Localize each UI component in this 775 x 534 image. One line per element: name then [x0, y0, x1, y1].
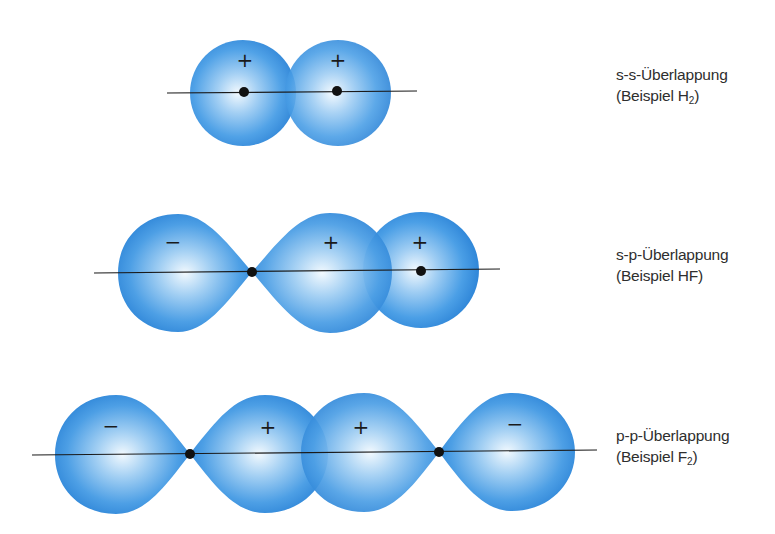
- label-example: (Beispiel F2): [616, 446, 729, 467]
- label-title: p-p-Überlappung: [616, 425, 729, 446]
- label-example: (Beispiel HF): [616, 265, 728, 286]
- row-s-s-diagram: + +: [167, 40, 417, 146]
- row-s-p-diagram: − + +: [94, 212, 500, 333]
- phase-sign: +: [323, 230, 340, 254]
- phase-sign: −: [507, 412, 524, 436]
- label-example: (Beispiel H2): [616, 85, 728, 106]
- phase-sign: −: [165, 230, 182, 254]
- phase-sign: −: [103, 414, 120, 438]
- nucleus-dot: [239, 87, 249, 97]
- phase-sign: +: [237, 48, 254, 72]
- orbital-overlap-diagram: + + − + + − + + − s-s-Überlappung (Beisp…: [0, 0, 775, 534]
- phase-sign: +: [353, 415, 370, 439]
- p-lobe-negative: [439, 393, 575, 511]
- nucleus-dot: [247, 267, 257, 277]
- nucleus-dot: [185, 449, 195, 459]
- label-title: s-p-Überlappung: [616, 244, 728, 265]
- nucleus-dot: [434, 447, 444, 457]
- phase-sign: +: [330, 48, 347, 72]
- row-p-p-diagram: − + + −: [32, 393, 597, 514]
- nucleus-dot: [416, 266, 426, 276]
- nucleus-dot: [332, 86, 342, 96]
- label-s-p: s-p-Überlappung (Beispiel HF): [616, 244, 728, 286]
- phase-sign: +: [412, 230, 429, 254]
- phase-sign: +: [260, 415, 277, 439]
- label-p-p: p-p-Überlappung (Beispiel F2): [616, 425, 729, 467]
- label-title: s-s-Überlappung: [616, 64, 728, 85]
- label-s-s: s-s-Überlappung (Beispiel H2): [616, 64, 728, 106]
